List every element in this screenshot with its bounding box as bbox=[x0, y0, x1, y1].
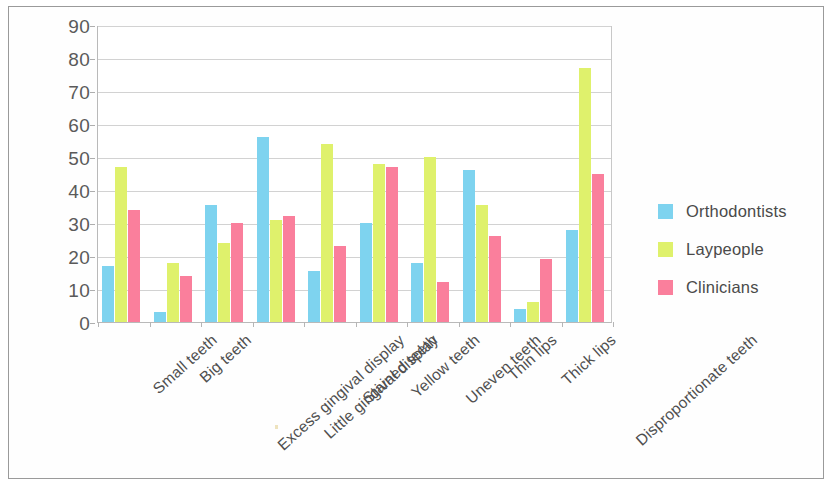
legend-label: Clinicians bbox=[686, 278, 759, 297]
bar bbox=[360, 223, 372, 322]
bar bbox=[527, 302, 539, 322]
bar-group bbox=[304, 26, 356, 322]
y-axis-tick-label: 70 bbox=[44, 83, 90, 102]
legend-item[interactable]: Laypeople bbox=[658, 230, 823, 268]
x-axis-labels: Small teethBig teethExcess gingival disp… bbox=[97, 323, 612, 443]
bar bbox=[437, 282, 449, 322]
bar-group bbox=[150, 26, 202, 322]
legend-label: Orthodontists bbox=[686, 202, 787, 221]
scan-artifact bbox=[275, 425, 278, 429]
bar bbox=[424, 157, 436, 322]
bar bbox=[270, 220, 282, 322]
bar bbox=[579, 68, 591, 322]
y-axis-tick-mark bbox=[90, 59, 95, 60]
bar bbox=[257, 137, 269, 322]
y-axis-tick-label: 10 bbox=[44, 281, 90, 300]
bar bbox=[154, 312, 166, 322]
y-axis: 9080706050403020100 bbox=[40, 26, 90, 323]
y-axis-tick-label: 90 bbox=[44, 17, 90, 36]
bar bbox=[373, 164, 385, 322]
y-axis-tick-mark bbox=[90, 224, 95, 225]
bar-group bbox=[356, 26, 408, 322]
bar bbox=[102, 266, 114, 322]
y-axis-tick-mark bbox=[90, 191, 95, 192]
bar bbox=[167, 263, 179, 322]
bar bbox=[411, 263, 423, 322]
y-axis-tick-mark bbox=[90, 158, 95, 159]
y-axis-tick-mark bbox=[90, 125, 95, 126]
bar bbox=[540, 259, 552, 322]
bar-group bbox=[253, 26, 305, 322]
bar-group bbox=[407, 26, 459, 322]
bar bbox=[334, 246, 346, 322]
x-axis-label: Disproportionate teeth bbox=[633, 331, 762, 449]
bar-group bbox=[510, 26, 562, 322]
x-axis-tick-mark bbox=[613, 322, 614, 327]
y-axis-tick-mark bbox=[90, 26, 95, 27]
bar-group bbox=[459, 26, 511, 322]
y-axis-tick-label: 30 bbox=[44, 215, 90, 234]
bar bbox=[566, 230, 578, 322]
bar bbox=[514, 309, 526, 322]
legend-label: Laypeople bbox=[686, 240, 764, 259]
bar bbox=[321, 144, 333, 322]
y-axis-tick-mark bbox=[90, 323, 95, 324]
bar bbox=[386, 167, 398, 322]
y-axis-tick-label: 20 bbox=[44, 248, 90, 267]
legend-swatch-icon bbox=[658, 280, 673, 295]
chart-legend: OrthodontistsLaypeopleClinicians bbox=[658, 192, 823, 306]
bar bbox=[128, 210, 140, 322]
bar bbox=[283, 216, 295, 322]
legend-swatch-icon bbox=[658, 204, 673, 219]
bar bbox=[218, 243, 230, 322]
y-axis-tick-label: 40 bbox=[44, 182, 90, 201]
y-axis-tick-label: 60 bbox=[44, 116, 90, 135]
legend-swatch-icon bbox=[658, 242, 673, 257]
bar bbox=[115, 167, 127, 322]
y-axis-tick-mark bbox=[90, 92, 95, 93]
x-axis-label: Thick lips bbox=[558, 331, 620, 389]
bar bbox=[308, 271, 320, 322]
bar bbox=[592, 174, 604, 323]
bar-chart: 9080706050403020100 Small teethBig teeth… bbox=[0, 0, 834, 491]
plot-area bbox=[97, 26, 612, 323]
bar-group bbox=[562, 26, 614, 322]
y-axis-tick-mark bbox=[90, 257, 95, 258]
bar-group bbox=[98, 26, 150, 322]
bar bbox=[231, 223, 243, 322]
bar bbox=[476, 205, 488, 322]
y-axis-tick-label: 50 bbox=[44, 149, 90, 168]
bar bbox=[489, 236, 501, 322]
bar-group bbox=[201, 26, 253, 322]
bars-layer bbox=[98, 26, 611, 322]
y-axis-tick-label: 0 bbox=[44, 314, 90, 333]
bar bbox=[180, 276, 192, 322]
bar bbox=[205, 205, 217, 322]
bar bbox=[463, 170, 475, 322]
y-axis-tick-mark bbox=[90, 290, 95, 291]
y-axis-tick-label: 80 bbox=[44, 50, 90, 69]
legend-item[interactable]: Clinicians bbox=[658, 268, 823, 306]
legend-item[interactable]: Orthodontists bbox=[658, 192, 823, 230]
bar-group-end bbox=[613, 26, 614, 322]
